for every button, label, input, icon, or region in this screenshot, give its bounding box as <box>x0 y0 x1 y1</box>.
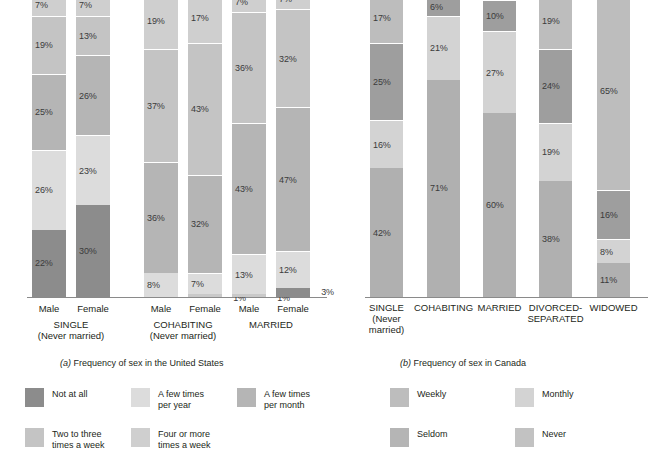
segment-value-label: 25% <box>373 77 391 87</box>
bar-segment[interactable]: 71% <box>427 80 460 297</box>
bar-segment[interactable]: 1% <box>232 294 266 297</box>
bar-segment[interactable]: 36% <box>232 12 266 122</box>
segment-value-label: 19% <box>542 147 560 157</box>
segment-value-label: 23% <box>79 166 97 176</box>
stacked-bar-female[interactable]: 3%12%47%32%7% <box>276 0 310 297</box>
bar-segment[interactable]: 7% <box>232 0 266 12</box>
stacked-bar-single[interactable]: 42%16%25%17% <box>370 0 403 297</box>
segment-value-label: 65% <box>600 86 618 96</box>
bar-segment[interactable]: 22% <box>32 230 66 297</box>
segment-value-label: 32% <box>191 219 209 229</box>
bar-segment[interactable]: 7% <box>76 0 110 16</box>
bar-segment[interactable]: 7% <box>32 0 66 16</box>
segment-value-label: 36% <box>235 63 253 73</box>
bar-segment[interactable]: 17% <box>188 0 222 43</box>
plot-area-us: 22%26%25%19%7%Male30%23%26%13%7%FemaleSI… <box>0 0 345 306</box>
bar-segment[interactable]: 11% <box>597 263 630 297</box>
legend-item[interactable]: A few times per month <box>237 388 310 411</box>
bar-segment[interactable]: 13% <box>76 16 110 56</box>
bar-segment[interactable]: 43% <box>188 43 222 175</box>
bar-segment[interactable]: 16% <box>597 190 630 239</box>
bar-segment[interactable]: 21% <box>427 16 460 80</box>
segment-value-label: 8% <box>600 247 613 257</box>
segment-value-label: 12% <box>279 265 297 275</box>
legend-swatch <box>515 428 534 447</box>
bar-segment[interactable]: 3% <box>276 288 310 297</box>
stacked-bar-female[interactable]: 30%23%26%13%7% <box>76 0 110 297</box>
bar-segment[interactable]: 25% <box>32 74 66 151</box>
legend-label: Not at all <box>52 388 88 400</box>
bar-segment[interactable]: 26% <box>76 55 110 135</box>
segment-value-label: 7% <box>79 0 92 10</box>
stacked-bar-male[interactable]: 1%13%43%36%7% <box>232 0 266 297</box>
segment-value-label: 13% <box>235 270 253 280</box>
stacked-bar-widowed[interactable]: 11%8%16%65% <box>597 0 630 297</box>
segment-value-label: 17% <box>373 13 391 23</box>
bar-segment[interactable]: 30% <box>76 205 110 297</box>
bar-segment[interactable]: 6% <box>427 0 460 16</box>
bar-segment[interactable]: 8% <box>597 239 630 263</box>
stacked-bar-cohabiting[interactable]: 71%21%6%2% <box>427 0 460 297</box>
bar-segment[interactable]: 43% <box>232 123 266 255</box>
segment-value-label: 22% <box>35 258 53 268</box>
axis-line <box>365 297 648 298</box>
segment-value-label: 17% <box>191 13 209 23</box>
bar-segment[interactable]: 42% <box>370 168 403 297</box>
bar-segment[interactable]: 19% <box>539 0 572 49</box>
bar-segment[interactable]: 19% <box>32 16 66 74</box>
bar-segment[interactable]: 27% <box>483 31 516 114</box>
bar-segment[interactable]: 24% <box>539 49 572 122</box>
bar-segment[interactable]: 8% <box>144 273 178 297</box>
bar-segment[interactable]: 12% <box>276 251 310 288</box>
segment-value-label: 13% <box>79 31 97 41</box>
bar-segment[interactable]: 13% <box>232 254 266 294</box>
bar-segment[interactable]: 47% <box>276 107 310 251</box>
bar-segment[interactable]: 17% <box>370 0 403 43</box>
segment-value-label: 37% <box>147 101 165 111</box>
bar-segment[interactable]: 25% <box>370 43 403 120</box>
bar-segment[interactable]: 1% <box>188 294 222 297</box>
bar-segment[interactable]: 7% <box>188 273 222 294</box>
legend-item[interactable]: Two to three times a week <box>25 428 105 451</box>
bar-segment[interactable]: 7% <box>276 0 310 9</box>
bar-segment[interactable]: 38% <box>539 181 572 297</box>
legend-canada: WeeklyMonthlySeldomNever <box>390 388 650 458</box>
legend-label: Two to three times a week <box>52 428 105 451</box>
segment-value-label: 38% <box>542 234 560 244</box>
segment-value-label: 32% <box>279 54 297 64</box>
bar-segment[interactable]: 32% <box>276 9 310 107</box>
bar-segment[interactable]: 23% <box>76 135 110 205</box>
bar-segment[interactable]: 65% <box>597 0 630 190</box>
legend-item[interactable]: Seldom <box>390 428 448 447</box>
legend-item[interactable]: Monthly <box>515 388 574 407</box>
legend-item[interactable]: Four or more times a week <box>131 428 211 451</box>
legend-swatch <box>131 388 150 407</box>
bar-segment[interactable]: 19% <box>144 0 178 49</box>
legend-item[interactable]: Weekly <box>390 388 446 407</box>
bar-segment[interactable]: 36% <box>144 162 178 272</box>
bar-segment[interactable]: 10% <box>483 0 516 31</box>
stacked-bar-male[interactable]: 22%26%25%19%7% <box>32 0 66 297</box>
stacked-bar-married[interactable]: 60%27%10%3% <box>483 0 516 297</box>
stacked-bar-divorced-separated[interactable]: 38%19%24%19% <box>539 0 572 297</box>
segment-value-label: 19% <box>542 16 560 26</box>
bar-segment[interactable]: 26% <box>32 150 66 230</box>
axis-tick-label-female: Female <box>64 303 122 314</box>
segment-value-label: 27% <box>486 68 504 78</box>
legend-item[interactable]: A few times per year <box>131 388 204 411</box>
stacked-bar-male[interactable]: 8%36%37%19% <box>144 0 178 297</box>
segment-value-label: 43% <box>191 104 209 114</box>
bar-segment[interactable]: 37% <box>144 49 178 162</box>
bar-segment[interactable]: 16% <box>370 120 403 169</box>
segment-value-label: 42% <box>373 228 391 238</box>
bar-segment[interactable]: 19% <box>539 123 572 181</box>
segment-value-label: 30% <box>79 246 97 256</box>
stacked-bar-female[interactable]: 1%7%32%43%17% <box>188 0 222 297</box>
legend-item[interactable]: Not at all <box>25 388 88 407</box>
segment-value-label: 71% <box>430 183 448 193</box>
bar-segment[interactable]: 60% <box>483 113 516 297</box>
segment-value-label: 60% <box>486 200 504 210</box>
legend-swatch <box>131 428 150 447</box>
bar-segment[interactable]: 32% <box>188 175 222 273</box>
legend-item[interactable]: Never <box>515 428 566 447</box>
